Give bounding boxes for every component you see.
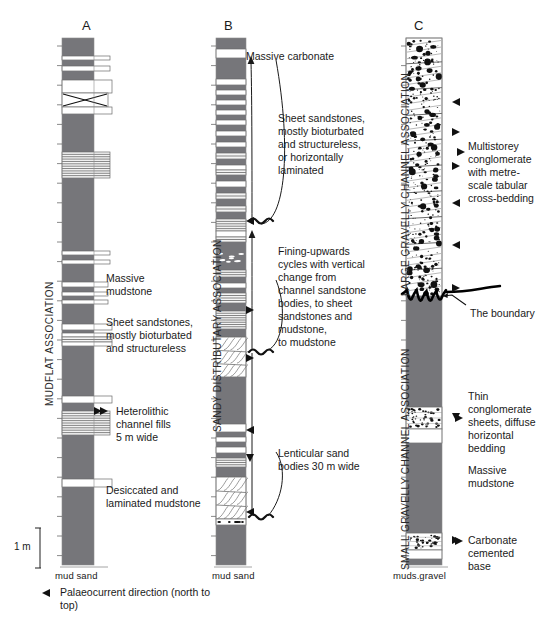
bed-sandstone xyxy=(216,181,246,187)
gravel-clast xyxy=(430,196,431,197)
gravel-clast xyxy=(422,117,423,118)
gravel-clast xyxy=(429,121,432,124)
gravel-clast xyxy=(421,277,424,280)
bed-sandstone xyxy=(62,342,112,346)
palaeocurrent-arrow-icon xyxy=(246,354,254,362)
gravel-clast xyxy=(430,545,433,548)
gravel-clast xyxy=(422,96,423,97)
gravel-clast xyxy=(435,278,437,280)
bed-mudstone xyxy=(62,60,94,66)
gravel-clast xyxy=(430,223,433,225)
gravel-clast xyxy=(434,235,440,240)
bed-mudstone xyxy=(216,442,246,447)
bed-mudstone xyxy=(62,296,94,300)
bed-sandstone xyxy=(216,90,246,95)
gravel-clast xyxy=(422,546,424,548)
gravel-clast xyxy=(417,270,419,271)
gravel-clast xyxy=(437,252,438,253)
bed-mudstone xyxy=(216,199,246,206)
gravel-clast xyxy=(413,246,419,250)
bed-sandstone xyxy=(62,333,112,337)
gravel-clast xyxy=(429,158,430,159)
bed-sandstone xyxy=(62,66,110,71)
bed-mudstone xyxy=(216,147,246,153)
gravel-clast xyxy=(428,258,430,260)
gravel-clast xyxy=(429,195,430,196)
gravel-clast xyxy=(436,408,439,411)
palaeocurrent-arrow-icon xyxy=(246,217,254,225)
bed-sandstone xyxy=(62,396,112,403)
gravel-clast xyxy=(430,45,436,49)
gravel-clast xyxy=(417,185,418,186)
pebble-clast xyxy=(228,521,231,523)
bed-mudstone xyxy=(62,346,94,396)
gravel-clast xyxy=(407,42,411,46)
gravel-clast xyxy=(425,59,430,63)
gravel-clast xyxy=(433,261,434,262)
gravel-clast xyxy=(423,148,424,149)
gravel-clast xyxy=(433,114,435,115)
gravel-clast xyxy=(425,268,426,269)
gravel-clast xyxy=(425,424,426,425)
gravel-clast xyxy=(427,425,429,426)
gravel-clast xyxy=(416,124,417,125)
gravel-clast xyxy=(418,74,419,75)
gravel-clast xyxy=(424,97,428,100)
gravel-clast xyxy=(419,239,424,244)
gravel-clast xyxy=(411,411,412,412)
gravel-clast xyxy=(422,139,424,140)
gravel-clast xyxy=(414,267,417,269)
annotation-desiccated-laminated-mudstone: Desiccated and laminated mudstone xyxy=(106,484,201,510)
gravel-clast xyxy=(412,234,414,235)
gravel-clast xyxy=(419,229,420,230)
gravel-clast xyxy=(429,290,430,291)
gravel-clast xyxy=(428,111,431,114)
gravel-clast xyxy=(428,99,429,100)
gravel-clast xyxy=(424,168,425,169)
bed-mudstone xyxy=(62,330,94,333)
gravel-clast xyxy=(429,136,431,138)
gravel-clast xyxy=(412,94,413,95)
leader-massive-carbonate xyxy=(251,62,252,224)
gravel-clast xyxy=(420,181,424,184)
gravel-clast xyxy=(428,251,429,252)
annotation-massive-mudstone-c: Massive mudstone xyxy=(468,464,514,490)
gravel-clast xyxy=(423,169,425,171)
gravel-clast xyxy=(435,209,437,210)
gravel-clast xyxy=(439,291,440,292)
gravel-clast xyxy=(427,61,428,62)
bed-sandstone xyxy=(216,231,246,237)
gravel-clast xyxy=(433,201,435,202)
gravel-clast xyxy=(425,45,427,46)
gravel-clast xyxy=(435,155,437,156)
column-heading-C: C xyxy=(414,18,423,33)
gravel-clast xyxy=(437,163,440,165)
bed-mudstone xyxy=(216,432,246,437)
gravel-clast xyxy=(425,235,427,237)
gravel-clast xyxy=(417,65,418,66)
gravel-clast xyxy=(424,219,425,220)
gravel-clast xyxy=(413,162,414,163)
bed-sandstone xyxy=(62,107,112,114)
cycle-boundary-wavy-mid xyxy=(249,350,273,355)
gravel-clast xyxy=(415,61,416,62)
gravel-clast xyxy=(413,151,415,152)
gravel-clast xyxy=(426,190,428,191)
bed-laminated-heterolithic xyxy=(216,219,246,231)
gravel-clast xyxy=(438,88,440,89)
gravel-clast xyxy=(425,81,428,84)
gravel-clast xyxy=(433,136,436,138)
gravel-clast xyxy=(430,92,432,94)
gravel-clast xyxy=(409,57,410,58)
gravel-clast xyxy=(420,57,422,59)
gravel-clast xyxy=(424,190,425,191)
column-heading-B: B xyxy=(224,18,233,33)
bed-mudstone xyxy=(406,443,442,533)
gravel-clast xyxy=(430,135,431,136)
gravel-clast xyxy=(432,214,434,216)
gravel-clast xyxy=(433,62,434,63)
gravel-clast xyxy=(420,93,421,94)
gravel-clast xyxy=(412,409,415,411)
gravel-clast xyxy=(427,192,430,194)
gravel-clast xyxy=(418,149,419,150)
